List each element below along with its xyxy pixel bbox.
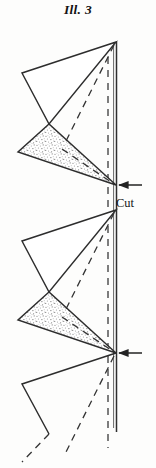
unit-upper-open-triangle [22,42,116,124]
unit-bottom-partial [22,353,116,462]
diagram-canvas [0,0,156,468]
unit-upper [18,42,116,185]
unit-lower-open-triangle [22,210,116,292]
unit-bottom-dashed-edge [22,434,49,462]
unit-lower [18,210,116,353]
guide-lines [108,42,117,448]
unit-bottom-open-triangle [22,353,116,434]
illustration-page: Ill. 3 [0,0,156,468]
cut-label: Cut [116,196,134,211]
unit-bottom-dashed-diagonal [66,356,114,452]
unit-upper-shaded-triangle [18,124,116,185]
unit-lower-shaded-triangle [18,292,116,353]
